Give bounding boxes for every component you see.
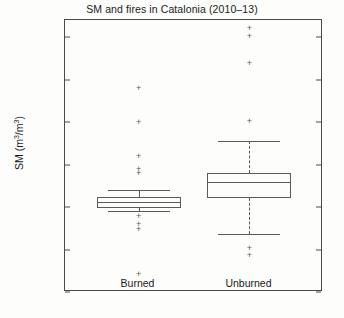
y-axis-label-end: ) <box>13 116 25 120</box>
y-axis-label-sup-2: 3 <box>13 120 20 124</box>
outlier-marker <box>246 118 253 125</box>
y-tick-mark-left <box>65 79 70 80</box>
y-tick-mark-left <box>65 249 70 250</box>
y-tick-mark-right <box>316 249 321 250</box>
y-tick-mark-left <box>65 207 70 208</box>
whisker-cap-upper <box>218 141 280 142</box>
outlier-marker <box>135 153 142 160</box>
y-tick-mark-right <box>316 164 321 165</box>
y-tick-mark-left <box>65 292 70 293</box>
y-tick-mark-right <box>316 122 321 123</box>
outlier-marker <box>246 251 253 258</box>
whisker-cap-upper <box>108 190 170 191</box>
y-tick-mark-right <box>316 207 321 208</box>
median-line-unburned <box>207 182 291 183</box>
outlier-marker <box>135 225 142 232</box>
outlier-marker <box>135 169 142 176</box>
y-tick-mark-right <box>316 79 321 80</box>
x-tick-label-unburned: Unburned <box>188 277 308 289</box>
median-line-burned <box>97 202 181 203</box>
whisker-lower <box>249 198 250 234</box>
box-unburned <box>207 173 291 198</box>
x-tick-label-burned: Burned <box>78 277 198 289</box>
y-axis-label-mid: /m <box>13 123 25 135</box>
whisker-cap-lower <box>218 234 280 235</box>
y-tick-mark-right <box>316 37 321 38</box>
plot-area: 0.000.050.100.150.200.250.30 <box>64 19 322 291</box>
y-tick-mark-right <box>316 292 321 293</box>
boxplot-figure: SM and fires in Catalonia (2010–13) SM (… <box>0 0 344 318</box>
chart-title: SM and fires in Catalonia (2010–13) <box>0 3 344 15</box>
y-tick-mark-left <box>65 164 70 165</box>
outlier-marker <box>246 33 253 40</box>
outlier-marker <box>246 59 253 66</box>
outlier-marker <box>135 84 142 91</box>
y-axis-label: SM (m3/m3) <box>13 98 25 188</box>
y-axis-label-sup-1: 3 <box>13 135 20 139</box>
whisker-upper <box>249 141 250 173</box>
y-tick-mark-left <box>65 122 70 123</box>
outlier-marker <box>135 118 142 125</box>
whisker-upper <box>139 190 140 197</box>
y-tick-mark-left <box>65 37 70 38</box>
y-axis-label-text: SM (m <box>13 139 25 170</box>
